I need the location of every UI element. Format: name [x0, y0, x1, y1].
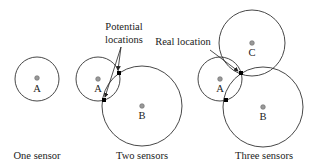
sensor-a-dot	[218, 77, 223, 82]
trilateration-diagram: A One sensor A B Potential locations Two…	[0, 0, 318, 167]
panel-one-sensor: A One sensor	[14, 57, 61, 161]
potential-locations-label-line1: Potential	[105, 21, 142, 32]
real-location-point	[239, 71, 243, 75]
sensor-a-label: A	[33, 83, 41, 94]
sensor-b-label: B	[259, 111, 266, 122]
sensor-b-label: B	[138, 110, 145, 121]
real-location-label: Real location	[155, 36, 211, 47]
sensor-c-label: C	[248, 47, 255, 58]
sensor-b-dot	[261, 105, 266, 110]
caption-one-sensor: One sensor	[14, 150, 61, 161]
sensor-b-dot	[140, 104, 145, 109]
sensor-a-dot	[96, 77, 101, 82]
sensor-a-label: A	[216, 83, 224, 94]
potential-locations-label-line2: locations	[105, 34, 143, 45]
intersection-point	[224, 98, 228, 102]
caption-three-sensors: Three sensors	[235, 150, 293, 161]
caption-two-sensors: Two sensors	[116, 150, 168, 161]
sensor-a-dot	[35, 76, 40, 81]
sensor-a-label: A	[94, 83, 102, 94]
potential-location-point	[117, 71, 121, 75]
arrow-to-real-location	[210, 50, 238, 71]
sensor-c-dot	[250, 41, 255, 46]
potential-location-point	[102, 98, 106, 102]
panel-three-sensors: C A B Real location Three sensors	[155, 10, 303, 161]
